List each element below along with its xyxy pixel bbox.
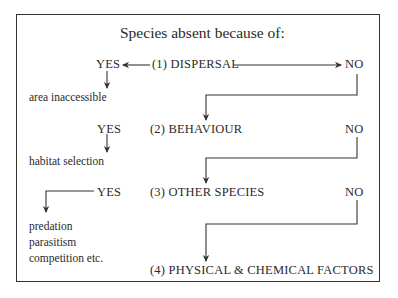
connector-no3-to-physical: [206, 200, 357, 261]
connector-no2-to-other-species: [206, 137, 357, 183]
connector-yes3-down: [46, 191, 94, 212]
connector-no1-to-behaviour: [206, 74, 357, 120]
flow-arrows: [0, 0, 398, 298]
